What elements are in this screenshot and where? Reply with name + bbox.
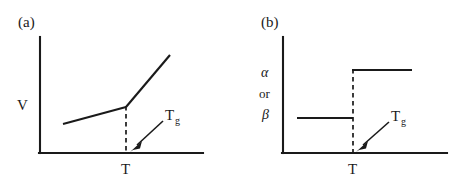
panel-b-y-axis-label-beta: β bbox=[261, 107, 269, 122]
panel-b: (b) α or β T T g bbox=[259, 14, 447, 177]
panel-a-glassy-branch bbox=[63, 107, 126, 124]
panel-a-y-axis-label: V bbox=[17, 97, 28, 113]
panel-a-x-axis-label: T bbox=[121, 161, 130, 177]
panel-b-y-axis-label-or: or bbox=[259, 86, 271, 101]
panel-b-tg-arrow-shaft bbox=[363, 122, 389, 145]
figure-root: (a) V T T g (b) bbox=[0, 0, 458, 181]
two-panel-glass-transition-figure: (a) V T T g (b) bbox=[0, 0, 458, 181]
panel-a-tg-label: T bbox=[165, 107, 174, 123]
panel-b-x-axis-label: T bbox=[348, 161, 357, 177]
panel-b-tg-arrow-head bbox=[356, 141, 368, 152]
panel-a-label: (a) bbox=[18, 14, 35, 31]
panel-b-label: (b) bbox=[261, 14, 279, 31]
panel-a-tg-annotation: T g bbox=[130, 107, 180, 152]
panel-b-tg-label: T bbox=[391, 108, 400, 124]
panel-a-tg-arrow-shaft bbox=[137, 121, 163, 145]
panel-a-liquid-branch bbox=[126, 55, 170, 107]
panel-b-y-axis-label-alpha: α bbox=[261, 65, 269, 80]
panel-b-tg-annotation: T g bbox=[356, 108, 406, 152]
panel-a-tg-label-subscript: g bbox=[175, 115, 180, 126]
panel-b-tg-label-subscript: g bbox=[401, 116, 406, 127]
panel-a: (a) V T T g bbox=[17, 14, 203, 177]
